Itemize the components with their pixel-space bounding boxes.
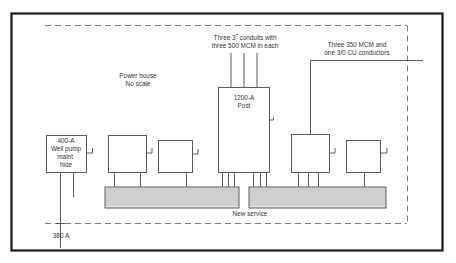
conductor-note: Three 350 MCM and one 3/0 CU conductors: [312, 41, 402, 57]
conduit-note: Three 3˝ conduits with three 500 MCM in …: [200, 34, 290, 50]
panel-3: [159, 141, 193, 173]
well-pump-rating: 400-A: [44, 137, 88, 145]
panel-5: [292, 135, 330, 173]
main-panel-label: 1200-A Post: [218, 94, 270, 110]
well-pump-label: 400-A Well pump maint. hide: [44, 137, 88, 169]
conduit-note-line-1: Three 3˝ conduits with: [200, 34, 290, 42]
title-line-2: No scale: [98, 80, 178, 88]
main-panel-rating: 1200-A: [218, 94, 270, 102]
well-pump-line-3: maint.: [44, 153, 88, 161]
bus-bar-right: [249, 187, 386, 208]
title-line-1: Power house: [98, 72, 178, 80]
feed-label: 380 A: [48, 232, 74, 240]
conductor-note-line-2: one 3/0 CU conductors: [312, 49, 402, 57]
incoming-conduits: [231, 53, 257, 87]
main-panel-name: Post: [218, 102, 270, 110]
conduit-note-line-2: three 500 MCM in each: [200, 42, 290, 50]
bus-bar-left: [105, 187, 239, 208]
feeder-350mcm-line: [311, 61, 424, 135]
conductor-note-line-1: Three 350 MCM and: [312, 41, 402, 49]
panel-6: [347, 141, 381, 173]
title-block: Power house No scale: [98, 72, 178, 88]
well-pump-line-4: hide: [44, 161, 88, 169]
panel-2: [109, 136, 147, 173]
bus-label: New service: [225, 210, 275, 218]
well-pump-name: Well pump: [44, 145, 88, 153]
